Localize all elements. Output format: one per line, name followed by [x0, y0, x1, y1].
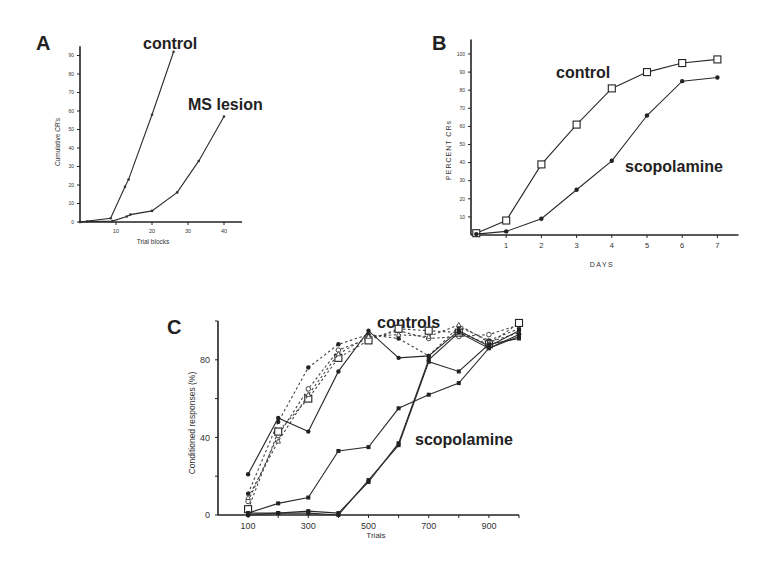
data-point-marker — [151, 113, 154, 116]
series-control-3 — [245, 319, 523, 512]
data-point-marker — [487, 346, 491, 350]
data-point-marker — [679, 60, 686, 67]
data-point-marker — [539, 217, 543, 221]
y-tick-label: 80 — [459, 87, 465, 93]
data-point-marker — [276, 511, 280, 515]
y-tick-label: 80 — [200, 355, 210, 365]
data-point-marker — [111, 220, 114, 223]
series-control-2 — [246, 323, 522, 504]
series-line — [248, 331, 519, 475]
series-scopolamine-2 — [246, 335, 521, 516]
panel-a-y-axis-label: Cumulative CR's — [54, 117, 61, 166]
figure: A control MS lesion Trial blocks Cumulat… — [0, 0, 772, 568]
data-point-marker — [151, 210, 154, 213]
panel-b-scopolamine-label: scopolamine — [625, 158, 723, 175]
data-point-marker — [246, 472, 250, 476]
data-point-marker — [306, 496, 310, 500]
y-tick-label: 0 — [71, 219, 74, 225]
data-point-marker — [127, 178, 130, 181]
data-point-marker — [645, 113, 649, 117]
series-line — [476, 59, 717, 233]
panel-c-scopolamine-label: scopolamine — [415, 431, 513, 448]
x-tick-label: 5 — [645, 241, 649, 250]
data-point-marker — [504, 229, 508, 233]
data-point-marker — [276, 416, 280, 420]
x-tick-label: 6 — [680, 241, 684, 250]
panel-b-letter: B — [432, 32, 446, 54]
series-control — [79, 51, 175, 224]
x-tick-label: 700 — [421, 521, 436, 531]
data-point-marker — [306, 387, 311, 392]
y-tick-label: 0 — [205, 510, 210, 520]
panel-a-x-axis-label: Trial blocks — [137, 238, 170, 245]
x-tick-label: 500 — [361, 521, 376, 531]
data-point-marker — [176, 191, 179, 194]
y-tick-label: 10 — [68, 200, 74, 206]
y-tick-label: 70 — [459, 105, 465, 111]
data-point-marker — [574, 188, 578, 192]
data-point-marker — [397, 441, 401, 445]
panel-c-y-axis-label: Conditioned responses (%) — [187, 372, 197, 475]
y-tick-label: 70 — [68, 89, 74, 95]
series-scopolamine-1 — [246, 329, 521, 477]
data-point-marker — [714, 56, 721, 63]
panel-a-control-label: control — [143, 35, 197, 52]
series-control — [473, 56, 721, 237]
y-tick-label: 30 — [459, 177, 465, 183]
panel-a-letter: A — [36, 32, 50, 54]
x-tick-label: 300 — [301, 521, 316, 531]
y-tick-label: 50 — [68, 126, 74, 132]
panel-c-x-axis-label: Trials — [366, 531, 385, 540]
data-point-marker — [396, 356, 400, 360]
data-point-marker — [336, 511, 340, 515]
panel-c-plot: 04080100300500700900 — [200, 319, 523, 531]
data-point-marker — [457, 331, 461, 335]
series-line — [248, 339, 519, 516]
data-point-marker — [644, 69, 651, 76]
data-point-marker — [275, 428, 282, 435]
y-tick-label: 100 — [457, 51, 466, 57]
data-point-marker — [306, 365, 310, 369]
y-tick-label: 40 — [68, 145, 74, 151]
data-point-marker — [425, 327, 432, 334]
data-point-marker — [396, 336, 400, 340]
series-line — [80, 52, 174, 222]
y-tick-label: 10 — [459, 214, 465, 220]
x-tick-label: 30 — [185, 228, 191, 234]
data-point-marker — [397, 406, 401, 410]
data-point-marker — [517, 329, 521, 333]
data-point-marker — [474, 232, 478, 236]
panel-b-x-axis-label: DAYS — [590, 261, 615, 268]
data-point-marker — [457, 322, 462, 326]
data-point-marker — [336, 342, 340, 346]
series-control-4 — [246, 322, 522, 499]
y-tick-label: 30 — [68, 163, 74, 169]
x-tick-label: 10 — [113, 228, 119, 234]
data-point-marker — [395, 325, 402, 332]
data-point-marker — [427, 393, 431, 397]
panel-b: B control scopolamine DAYS PERCENT CRs 1… — [432, 32, 739, 268]
y-tick-label: 80 — [68, 71, 74, 77]
x-tick-label: 40 — [221, 228, 227, 234]
series-line — [80, 117, 224, 223]
data-point-marker — [246, 499, 251, 504]
data-point-marker — [367, 480, 371, 484]
data-point-marker — [86, 220, 89, 223]
data-point-marker — [427, 358, 431, 362]
y-tick-label: 90 — [68, 52, 74, 58]
y-tick-label: 20 — [68, 182, 74, 188]
data-point-marker — [366, 329, 370, 333]
data-point-marker — [457, 369, 461, 373]
data-point-marker — [126, 215, 129, 218]
data-point-marker — [124, 186, 127, 189]
x-tick-label: 100 — [241, 521, 256, 531]
x-tick-label: 1 — [504, 241, 508, 250]
series-line — [248, 327, 519, 494]
data-point-marker — [573, 121, 580, 128]
data-point-marker — [246, 495, 251, 499]
data-point-marker — [198, 160, 201, 163]
panel-b-control-label: control — [556, 64, 610, 81]
data-point-marker — [680, 79, 684, 83]
data-point-marker — [503, 217, 510, 224]
data-point-marker — [336, 369, 340, 373]
